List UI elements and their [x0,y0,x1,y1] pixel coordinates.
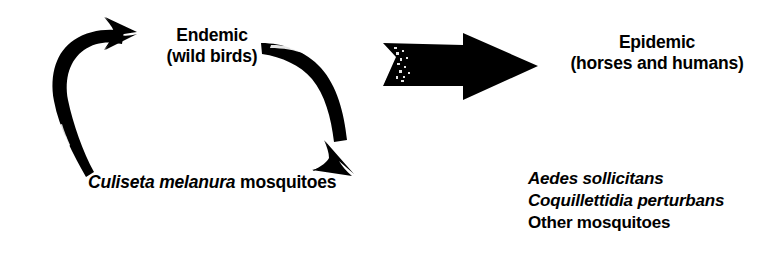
list-item: Other mosquitoes [528,212,724,234]
list-item: Coquillettidia perturbans [528,190,724,212]
spillover-arrow [380,30,538,100]
bridge-vector-list: Aedes sollicitans Coquillettidia perturb… [528,168,724,234]
epidemic-line-2: (horses and humans) [570,53,743,74]
cycle-arrow-right [261,43,354,176]
enzootic-vector-label: Culiseta melanura mosquitoes [88,172,336,193]
endemic-line-1: Endemic [167,25,258,46]
list-item: Aedes sollicitans [528,168,724,190]
cycle-arrow-left [53,17,137,177]
node-label-epidemic: Epidemic (horses and humans) [570,32,743,75]
epidemic-line-1: Epidemic [570,32,743,53]
enzootic-vector-species: Culiseta melanura [88,172,235,192]
node-label-endemic: Endemic (wild birds) [167,25,258,68]
enzootic-vector-suffix: mosquitoes [240,172,336,192]
diagram-canvas: Endemic (wild birds) Epidemic (horses an… [0,0,773,253]
endemic-line-2: (wild birds) [167,46,258,67]
